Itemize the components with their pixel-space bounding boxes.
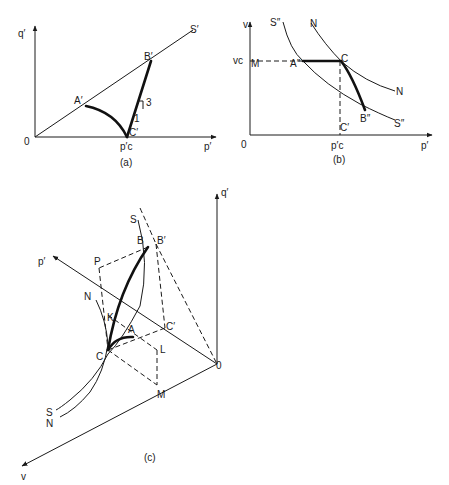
point-a-label: A′: [74, 95, 83, 106]
point-a-label: A″: [290, 58, 301, 69]
point-a-label: A: [128, 324, 135, 335]
point-c-label: C: [341, 53, 348, 64]
dash-c-m: [108, 350, 157, 385]
n-curve-label-top: N: [84, 291, 91, 302]
n-curve-label-end: N: [46, 418, 53, 429]
vc-tick-label: vc: [233, 55, 243, 66]
pc-tick-label: p′c: [120, 141, 132, 152]
csl-curve: [56, 220, 145, 410]
critical-state-diagram: q′ 0 p′ S′ B′ A′ C′ 3 1 p′c (a) v 0 p′ v…: [0, 0, 449, 485]
n-curve-label-top: N: [310, 18, 317, 29]
p-axis-label: p′: [38, 256, 46, 267]
p-axis: [53, 256, 217, 364]
path-a-to-c: [86, 106, 127, 137]
point-l-label: L: [160, 344, 166, 355]
origin-label: 0: [216, 360, 222, 371]
csl-curve: [283, 22, 395, 120]
slope-run: 1: [134, 113, 140, 124]
origin-label: 0: [241, 139, 247, 150]
point-p-label: P: [94, 256, 101, 267]
point-b-label: B′: [144, 51, 153, 62]
point-cp-label: C′: [340, 122, 349, 133]
q-axis-label: q′: [221, 187, 229, 198]
path-a-c-b: [303, 61, 365, 110]
point-k-label: K: [107, 312, 114, 323]
p-axis-label: p′: [421, 140, 429, 151]
panel-c: q′ p′ v 0 S B B′ P N K A C′ C L M S N (c…: [21, 187, 229, 482]
point-b-label: B: [137, 235, 144, 246]
caption-b: (b): [333, 154, 345, 165]
caption-c: (c): [144, 452, 156, 463]
point-b-label: B″: [360, 113, 371, 124]
s-curve-label-top: S″: [270, 17, 281, 28]
s-curve-label-end: S″: [394, 118, 405, 129]
n-curve-label-end: N: [396, 86, 403, 97]
dash-bp-cp: [156, 244, 165, 328]
p-axis-label: p′: [204, 141, 212, 152]
point-m-label: M: [251, 58, 259, 69]
origin-label: 0: [24, 136, 30, 147]
point-c-label: C: [96, 351, 103, 362]
pc-tick-label: p′c: [331, 140, 343, 151]
point-cp-label: C′: [166, 321, 175, 332]
panel-a: q′ 0 p′ S′ B′ A′ C′ 3 1 p′c (a): [18, 24, 216, 168]
q-axis-label: q′: [18, 28, 26, 39]
point-m-label: M: [157, 389, 165, 400]
point-bp-label: B′: [157, 235, 166, 246]
s-curve-label-end: S: [46, 407, 53, 418]
point-c-label: C′: [129, 127, 138, 138]
s-line-label: S′: [190, 24, 199, 35]
slope-rise: 3: [146, 97, 152, 108]
s-curve-label-top: S: [130, 214, 137, 225]
v-axis-label: v: [243, 19, 248, 30]
v-axis-label: v: [21, 471, 26, 482]
dash-c-cp: [108, 328, 165, 350]
caption-a: (a): [120, 157, 132, 168]
panel-b: v 0 p′ vc M A″ C B″ C′ p′c S″ S″ N N (b): [233, 17, 432, 165]
